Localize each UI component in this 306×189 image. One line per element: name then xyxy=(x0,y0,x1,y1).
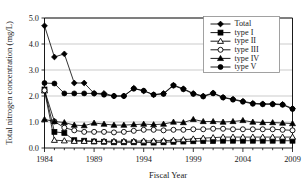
marker-2-21 xyxy=(250,134,256,139)
marker-5-20 xyxy=(240,99,245,104)
marker-5-18 xyxy=(221,95,226,100)
marker-5-17 xyxy=(211,91,216,96)
x-tick-label-1: 1989 xyxy=(86,155,103,164)
marker-2-25 xyxy=(290,134,296,139)
marker-5-3 xyxy=(72,91,77,96)
marker-5-6 xyxy=(102,92,107,97)
x-axis-ticks: 198419891994199920042009 xyxy=(36,148,301,164)
marker-0-1 xyxy=(52,54,58,60)
marker-3-3 xyxy=(72,128,77,133)
marker-5-21 xyxy=(250,101,255,106)
marker-2-23 xyxy=(270,134,276,139)
series-line-2 xyxy=(45,91,293,141)
marker-4-13 xyxy=(170,119,176,124)
marker-5-16 xyxy=(201,94,206,99)
y-tick-label-1: 1.0 xyxy=(29,118,39,127)
series-type-iii xyxy=(42,88,295,135)
marker-3-5 xyxy=(92,129,97,134)
marker-5-9 xyxy=(131,86,136,91)
marker-5-10 xyxy=(141,88,146,93)
marker-3-20 xyxy=(240,127,245,132)
marker-3-18 xyxy=(221,126,226,131)
marker-5-22 xyxy=(260,102,265,107)
marker-5-14 xyxy=(181,87,186,92)
x-tick-label-4: 2004 xyxy=(235,155,252,164)
marker-3-16 xyxy=(201,127,206,132)
marker-5-12 xyxy=(161,91,166,96)
series-line-3 xyxy=(45,90,293,132)
marker-3-12 xyxy=(161,128,166,133)
chart-figure: 0.01.02.03.04.05.01984198919941999200420… xyxy=(0,0,306,189)
x-tick-label-0: 1984 xyxy=(36,155,53,164)
marker-3-6 xyxy=(102,129,107,134)
marker-3-24 xyxy=(280,127,285,132)
marker-5-15 xyxy=(191,91,196,96)
marker-3-8 xyxy=(121,129,126,134)
marker-5-23 xyxy=(270,102,275,107)
x-tick-label-2: 1994 xyxy=(135,155,152,164)
marker-5-4 xyxy=(82,91,87,96)
marker-legend-3 xyxy=(218,47,223,52)
marker-4-15 xyxy=(190,116,196,121)
marker-legend-5 xyxy=(218,65,223,70)
marker-3-14 xyxy=(181,127,186,132)
line-chart-canvas: 0.01.02.03.04.05.01984198919941999200420… xyxy=(0,0,306,189)
marker-3-7 xyxy=(111,130,116,135)
marker-5-0 xyxy=(42,81,47,86)
marker-2-19 xyxy=(230,134,236,139)
marker-5-8 xyxy=(121,94,126,99)
marker-5-7 xyxy=(111,94,116,99)
marker-4-5 xyxy=(91,120,97,125)
marker-3-0 xyxy=(42,88,47,93)
marker-4-0 xyxy=(42,116,48,121)
marker-2-24 xyxy=(280,134,286,139)
y-tick-label-5: 5.0 xyxy=(29,14,39,23)
marker-3-10 xyxy=(141,127,146,132)
marker-5-1 xyxy=(52,81,57,86)
legend-label-5: type V xyxy=(235,62,257,71)
marker-5-24 xyxy=(280,102,285,107)
marker-4-20 xyxy=(240,117,246,122)
x-tick-label-5: 2009 xyxy=(284,155,301,164)
marker-5-5 xyxy=(92,91,97,96)
marker-3-13 xyxy=(171,127,176,132)
marker-3-21 xyxy=(250,127,255,132)
x-axis-title: Fiscal Year xyxy=(149,170,187,180)
series-line-4 xyxy=(45,119,293,125)
marker-3-4 xyxy=(82,129,87,134)
y-tick-label-0: 0.0 xyxy=(29,144,39,153)
marker-3-15 xyxy=(191,127,196,132)
marker-3-22 xyxy=(260,127,265,132)
marker-3-17 xyxy=(211,126,216,131)
marker-3-11 xyxy=(151,127,156,132)
marker-4-17 xyxy=(210,118,216,123)
chart-legend: Totaltype Itype IItype IIItype IVtype V xyxy=(204,17,280,73)
series-line-1 xyxy=(45,90,293,143)
marker-5-2 xyxy=(62,91,67,96)
marker-1-2 xyxy=(62,130,67,135)
y-axis-title: Total nitrogen concentration (mg/L) xyxy=(4,21,14,145)
marker-3-23 xyxy=(270,127,275,132)
marker-3-2 xyxy=(62,125,67,130)
x-tick-label-3: 1999 xyxy=(185,155,202,164)
marker-0-2 xyxy=(61,51,67,57)
marker-2-20 xyxy=(240,134,246,139)
marker-2-18 xyxy=(220,134,226,139)
marker-3-19 xyxy=(230,127,235,132)
marker-5-19 xyxy=(230,97,235,102)
marker-3-9 xyxy=(131,128,136,133)
marker-5-11 xyxy=(151,92,156,97)
y-tick-label-3: 3.0 xyxy=(29,66,39,75)
marker-3-25 xyxy=(290,128,295,133)
marker-5-13 xyxy=(171,83,176,88)
marker-2-22 xyxy=(260,134,266,139)
marker-5-25 xyxy=(290,107,295,112)
marker-0-0 xyxy=(42,23,48,29)
marker-legend-1 xyxy=(218,30,223,35)
marker-0-3 xyxy=(71,80,77,86)
y-tick-label-4: 4.0 xyxy=(29,40,39,49)
marker-2-1 xyxy=(51,137,57,142)
y-tick-label-2: 2.0 xyxy=(29,92,39,101)
